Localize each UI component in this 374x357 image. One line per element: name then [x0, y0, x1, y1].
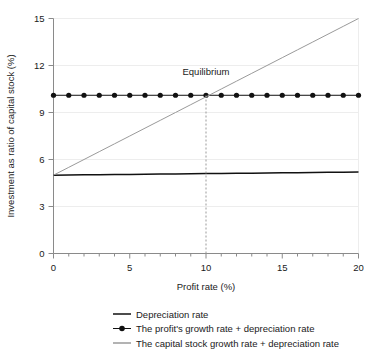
series-marker [295, 93, 300, 98]
series-marker [112, 93, 117, 98]
y-tick-label: 3 [39, 201, 44, 212]
series-marker [66, 93, 71, 98]
x-axis-title: Profit rate (%) [177, 281, 236, 292]
legend-label-1: The profit's growth rate + depreciation … [136, 323, 314, 334]
series-marker [127, 93, 132, 98]
y-tick-label: 15 [34, 13, 45, 24]
series-marker [310, 93, 315, 98]
series-marker [142, 93, 147, 98]
series-marker [280, 93, 285, 98]
x-tick-label: 15 [277, 262, 288, 273]
annotation-equilibrium: Equilibrium [183, 66, 230, 77]
chart-legend: Depreciation rateThe profit's growth rat… [113, 309, 339, 349]
series-marker [81, 93, 86, 98]
y-tick-label: 9 [39, 107, 44, 118]
legend-label-0: Depreciation rate [136, 309, 208, 320]
x-tick-label: 5 [127, 262, 132, 273]
y-axis-tick-labels: 03691215 [34, 13, 45, 259]
legend-label-2: The capital stock growth rate + deprecia… [136, 338, 339, 349]
profit-rate-investment-chart: 05101520 03691215 Equilibrium Profit rat… [0, 0, 374, 357]
y-axis-ticks [49, 19, 54, 254]
series-marker [97, 93, 102, 98]
series-marker [219, 93, 224, 98]
series-marker [188, 93, 193, 98]
series-marker [173, 93, 178, 98]
x-axis-ticks [54, 254, 359, 259]
series-marker [51, 93, 56, 98]
series-marker [325, 93, 330, 98]
series-marker [234, 93, 239, 98]
y-axis-title: Investment as ratio of capital stock (%) [5, 54, 16, 217]
x-axis-tick-labels: 05101520 [51, 262, 364, 273]
y-tick-label: 6 [39, 154, 44, 165]
x-tick-label: 0 [51, 262, 56, 273]
series-marker [158, 93, 163, 98]
y-tick-label: 12 [34, 60, 45, 71]
series-marker [249, 93, 254, 98]
annotations: Equilibrium [183, 66, 230, 77]
chart-container: 05101520 03691215 Equilibrium Profit rat… [0, 0, 374, 357]
x-tick-label: 10 [201, 262, 212, 273]
x-tick-label: 20 [353, 262, 364, 273]
series-marker [356, 93, 361, 98]
legend-marker-dot-1 [119, 326, 125, 332]
series-marker [341, 93, 346, 98]
series-marker [264, 93, 269, 98]
y-tick-label: 0 [39, 248, 44, 259]
